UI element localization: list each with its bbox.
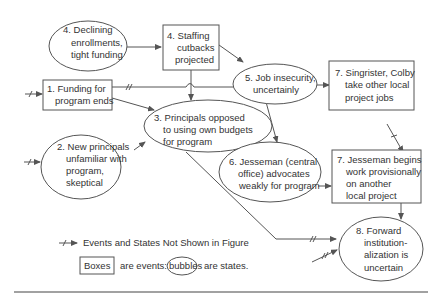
legend-arrow-text: Events and States Not Shown in Figure [83,237,249,248]
node-7-jesseman-begins: 7. Jesseman beginswork provisionallyon a… [332,150,422,203]
node-4-declining-enrollments: 4. Decliningenrollments,tight funding [49,21,127,71]
legend-states-text: are states. [204,260,248,271]
legend-bubbles-word: bubbles [169,260,203,271]
edge-1-to-5 [112,84,252,88]
edge-2-to-3 [134,142,145,150]
svg-text:1. Funding forprogram ends: 1. Funding forprogram ends [47,83,114,106]
node-7-singrister-colby: 7. Singrister, Colbytake other localproj… [329,61,415,110]
node-1-funding-ends: 1. Funding forprogram ends [43,80,114,110]
edge-1-to-3 [112,98,154,110]
edge-external-to-8 [312,250,337,262]
edge-4b-to-5 [219,45,243,62]
legend: Events and States Not Shown in Figure Bo… [59,237,249,275]
node-2-new-principals: 2. New principalsunfamiliar withprogram,… [41,135,130,199]
node-4-staffing-cutbacks: 4. Staffingcutbacksprojected [163,25,219,70]
svg-text:8. Forwardinstitution-alizatio: 8. Forwardinstitution-alization isuncert… [356,225,409,273]
node-5-job-insecurity: 5. Job insecurity,uncertainly [233,64,317,104]
causal-network-diagram: 4. Decliningenrollments,tight funding 4.… [0,0,444,295]
edge-external-to-7b [387,124,403,152]
node-6-jesseman-advocates: 6. Jesseman (centraloffice) advocateswea… [219,142,321,202]
node-8-forward-institutionalization: 8. Forwardinstitution-alization isuncert… [339,217,423,281]
svg-text:6. Jesseman (centraloffice) ad: 6. Jesseman (centraloffice) advocateswea… [229,156,320,191]
legend-events-text: are events: [120,260,167,271]
legend-boxes-word: Boxes [84,260,111,271]
